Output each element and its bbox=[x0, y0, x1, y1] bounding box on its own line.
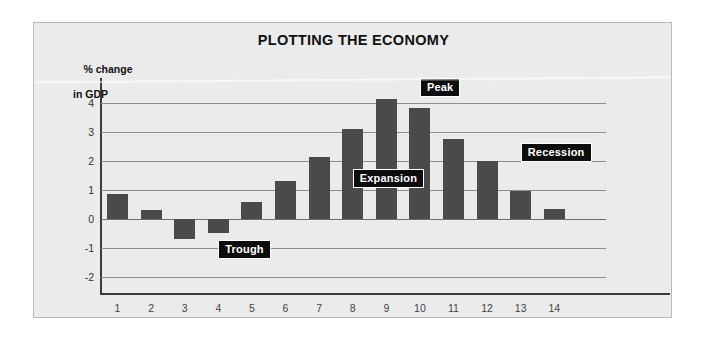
y-tick-label: 4 bbox=[88, 97, 94, 109]
plot-area: 43210-1-2 1234567891011121314 TroughExpa… bbox=[101, 86, 606, 294]
x-tick-label: 2 bbox=[136, 302, 166, 314]
y-tick-label: 0 bbox=[88, 213, 94, 225]
x-tick-label: 10 bbox=[405, 302, 435, 314]
chart-panel: PLOTTING THE ECONOMY % change in GDP 432… bbox=[33, 22, 672, 318]
bar bbox=[443, 139, 464, 218]
x-tick-label: 8 bbox=[338, 302, 368, 314]
x-tick-label: 7 bbox=[304, 302, 334, 314]
annotation-trough: Trough bbox=[218, 240, 270, 259]
bar bbox=[510, 191, 531, 218]
bar bbox=[477, 161, 498, 219]
y-axis-title-line1: % change bbox=[84, 63, 133, 75]
gridline-4: 4 bbox=[101, 103, 606, 104]
x-tick-label: 3 bbox=[170, 302, 200, 314]
bar bbox=[376, 99, 397, 219]
x-tick-label: 4 bbox=[203, 302, 233, 314]
gridline-neg2: -2 bbox=[101, 277, 606, 278]
bar bbox=[208, 219, 229, 233]
bar bbox=[409, 108, 430, 219]
x-tick-label: 1 bbox=[103, 302, 133, 314]
annotation-expansion: Expansion bbox=[353, 169, 424, 188]
y-tick-label: -1 bbox=[85, 242, 94, 254]
bar bbox=[309, 157, 330, 219]
y-axis-line bbox=[100, 78, 102, 294]
x-axis-line bbox=[100, 293, 670, 295]
bar bbox=[141, 210, 162, 219]
bar bbox=[275, 181, 296, 219]
gridline-neg1: -1 bbox=[101, 248, 606, 249]
y-tick-label: -2 bbox=[85, 271, 94, 283]
y-tick-label: 2 bbox=[88, 155, 94, 167]
x-tick-label: 13 bbox=[506, 302, 536, 314]
x-tick-label: 5 bbox=[237, 302, 267, 314]
x-tick-label: 12 bbox=[472, 302, 502, 314]
chart-title: PLOTTING THE ECONOMY bbox=[34, 32, 672, 48]
annotation-peak: Peak bbox=[420, 78, 461, 97]
annotation-recession: Recession bbox=[521, 143, 592, 162]
bar bbox=[241, 202, 262, 219]
chart-screenshot: PLOTTING THE ECONOMY % change in GDP 432… bbox=[0, 0, 707, 337]
x-tick-label: 11 bbox=[439, 302, 469, 314]
bar bbox=[544, 209, 565, 219]
x-tick-label: 9 bbox=[371, 302, 401, 314]
x-tick-label: 6 bbox=[271, 302, 301, 314]
y-tick-label: 1 bbox=[88, 184, 94, 196]
bar bbox=[107, 194, 128, 219]
bar bbox=[174, 219, 195, 239]
y-tick-label: 3 bbox=[88, 126, 94, 138]
x-tick-label: 14 bbox=[539, 302, 569, 314]
